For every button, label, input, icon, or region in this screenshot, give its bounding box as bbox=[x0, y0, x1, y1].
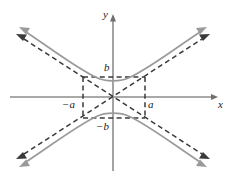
hyperbola-figure: y x b −b a −a bbox=[0, 0, 229, 175]
figure-canvas bbox=[0, 0, 229, 175]
axis-group bbox=[10, 14, 218, 171]
label-a: a bbox=[148, 99, 154, 110]
x-axis-arrowhead bbox=[211, 94, 218, 100]
label-negative-a: −a bbox=[62, 99, 75, 110]
y-axis-arrowhead bbox=[110, 14, 116, 22]
y-axis-label: y bbox=[103, 9, 108, 20]
x-axis-label: x bbox=[218, 99, 223, 110]
label-b: b bbox=[104, 62, 110, 73]
label-negative-b: −b bbox=[96, 121, 109, 132]
